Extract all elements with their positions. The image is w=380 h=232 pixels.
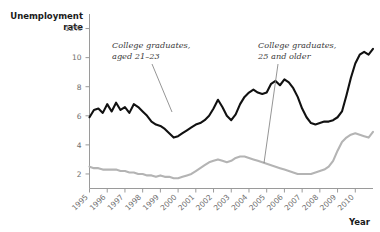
unemployment-rate-chart: Unemployment rate 24681012% 199519961997… xyxy=(0,0,380,232)
annotation-21-23-line1: College graduates, xyxy=(112,40,190,50)
y-tick-label: 12% xyxy=(65,24,82,33)
annotation-college-grads-25-older: College graduates, 25 and older xyxy=(257,40,336,163)
x-tick-label: 2006 xyxy=(265,192,285,212)
x-tick-label: 2000 xyxy=(159,192,179,212)
x-tick-label: 1996 xyxy=(88,192,108,212)
y-tick-label: 4 xyxy=(77,141,82,150)
chart-svg: Unemployment rate 24681012% 199519961997… xyxy=(0,0,380,232)
x-axis-title: Year xyxy=(348,217,371,227)
y-tick-label: 8 xyxy=(77,83,82,92)
x-tick-label: 1999 xyxy=(141,192,161,212)
x-tick-label: 2004 xyxy=(230,192,250,212)
x-tick-label: 1998 xyxy=(123,192,143,212)
x-tick-label: 1997 xyxy=(105,192,125,212)
y-axis-title-line1: Unemployment xyxy=(10,11,83,21)
annotation-25-older-line2: 25 and older xyxy=(257,51,312,61)
x-tick-label: 2009 xyxy=(318,192,338,212)
y-tick-group: 24681012% xyxy=(65,24,90,178)
y-tick-label: 10 xyxy=(72,53,82,62)
x-tick-label: 2007 xyxy=(283,192,303,212)
annotation-21-23-leader-line xyxy=(152,64,172,112)
x-tick-label: 2008 xyxy=(300,192,320,212)
x-tick-group: 1995199619971998199920002001200220032004… xyxy=(70,189,356,213)
series-layer xyxy=(90,49,374,178)
series-line-college-grads-25-older xyxy=(90,132,374,179)
annotation-college-grads-21-23: College graduates, aged 21–23 xyxy=(112,40,190,112)
series-line-college-grads-21-23 xyxy=(90,49,374,138)
x-tick-label: 2005 xyxy=(247,192,267,212)
annotation-25-older-line1: College graduates, xyxy=(258,40,336,50)
annotation-25-older-leader-line xyxy=(264,64,278,163)
x-tick-label: 2001 xyxy=(176,192,196,212)
y-tick-label: 6 xyxy=(77,112,82,121)
x-tick-label: 2003 xyxy=(212,192,232,212)
y-tick-label: 2 xyxy=(77,170,82,179)
x-tick-label: 1995 xyxy=(70,192,90,212)
x-tick-label: 2010 xyxy=(336,192,356,212)
annotation-21-23-line2: aged 21–23 xyxy=(112,51,160,61)
x-tick-label: 2002 xyxy=(194,192,214,212)
